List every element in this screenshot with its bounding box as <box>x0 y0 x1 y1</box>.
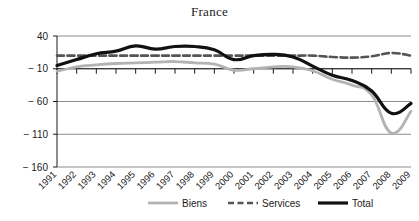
y-axis-tick-label: − 160 <box>23 162 49 173</box>
x-axis-tick-label: 2009 <box>390 169 413 192</box>
y-axis-tick-label: 40 <box>37 31 49 42</box>
x-axis-tick-label: 2003 <box>272 169 295 192</box>
x-axis-tick-label: 1996 <box>134 169 157 192</box>
x-axis-tick-label: 1993 <box>75 169 98 192</box>
x-axis-tick-label: 2004 <box>291 169 314 192</box>
x-axis-tick-label: 2002 <box>252 169 275 192</box>
legend-label-services: Services <box>262 198 300 209</box>
legend-label-total: Total <box>352 198 373 209</box>
x-axis-tick-label: 1997 <box>154 169 177 192</box>
x-axis-tick-label: 2005 <box>311 169 334 192</box>
x-axis-tick-label: 2007 <box>350 169 373 192</box>
chart-legend: BiensServicesTotal <box>148 198 373 209</box>
x-axis-tick-label: 1994 <box>95 169 118 192</box>
chart-figure: France 40− 10− 60− 110− 160 199119921993… <box>0 0 419 221</box>
x-axis-tick-label: 2000 <box>213 169 236 192</box>
x-axis-tick-label: 2008 <box>370 169 393 192</box>
x-axis-tick-label: 1999 <box>193 169 216 192</box>
x-axis-tick-label: 2001 <box>232 169 255 192</box>
legend-label-biens: Biens <box>182 198 207 209</box>
y-axis-tick-label: − 60 <box>28 96 48 107</box>
x-axis-tick-label: 1998 <box>173 169 196 192</box>
x-axis-tick-label: 1992 <box>55 169 78 192</box>
series-line-services <box>57 53 411 58</box>
y-axis-ticks-group: 40− 10− 60− 110− 160 <box>23 31 57 173</box>
x-axis-tick-label: 1995 <box>114 169 137 192</box>
y-axis-tick-label: − 110 <box>23 129 48 140</box>
data-series-group <box>57 46 411 134</box>
chart-plot-svg: 40− 10− 60− 110− 160 1991199219931994199… <box>0 0 419 221</box>
y-axis-tick-label: − 10 <box>28 63 48 74</box>
x-axis-tick-label: 2006 <box>331 169 354 192</box>
